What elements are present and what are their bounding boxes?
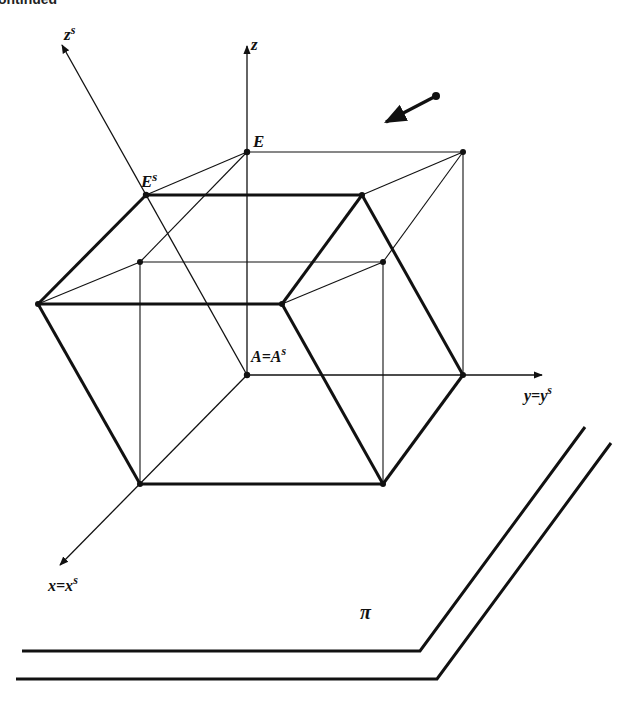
projected-cube-edges [38,195,463,484]
cropped-header-text: ontinued [0,0,57,7]
zs-axis [62,45,247,375]
label-Es: Es [140,169,157,191]
vertices [35,149,466,487]
vertex-E [244,149,250,155]
label-zs: zs [63,23,76,44]
label-x: x=xs [47,573,78,594]
label-pi: π [360,601,372,623]
label-E: E [252,132,264,151]
plane-pi [16,427,611,679]
oblique-projection-diagram: ontinued [0,0,634,705]
x-axis [60,375,247,565]
label-A: A=As [250,344,286,365]
projection-direction-arrow [386,92,440,122]
diagram-canvas: ontinued [0,0,634,705]
vertex-A [244,372,250,378]
label-y: y=ys [522,383,552,405]
original-cube-edges [38,152,463,484]
label-z: z [250,35,258,54]
vertex-Es [143,192,149,198]
